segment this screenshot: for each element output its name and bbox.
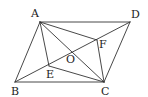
labels-group: ADBCOEF	[11, 7, 140, 97]
segment-ba	[15, 22, 40, 82]
point-label-a: A	[30, 7, 40, 20]
point-label-c: C	[101, 85, 109, 97]
point-label-b: B	[11, 85, 19, 97]
segments-group	[15, 22, 130, 82]
geometry-diagram: ADBCOEF	[0, 0, 148, 97]
point-label-e: E	[46, 68, 54, 81]
point-label-o: O	[66, 53, 75, 66]
point-label-f: F	[99, 38, 107, 51]
segment-af	[40, 22, 97, 40]
point-label-d: D	[131, 8, 140, 21]
segment-dc	[104, 22, 130, 82]
